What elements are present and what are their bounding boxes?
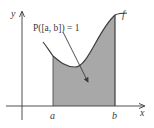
x-axis-label: x — [139, 107, 145, 118]
b-label: b — [112, 110, 117, 121]
probability-density-diagram: y x a b f P([a, b]) = 1 — [0, 0, 154, 128]
a-label: a — [50, 110, 55, 121]
y-axis-label: y — [10, 8, 16, 19]
function-label: f — [122, 9, 126, 20]
probability-annotation: P([a, b]) = 1 — [33, 23, 80, 34]
